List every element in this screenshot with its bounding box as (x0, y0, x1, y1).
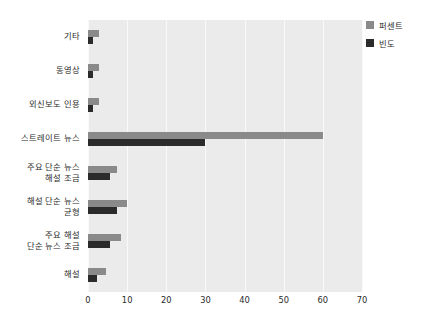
bar-percent[interactable] (88, 166, 117, 173)
chart-legend: 퍼센트빈도 (366, 19, 427, 55)
bar-group (88, 54, 362, 88)
bar-percent[interactable] (88, 98, 99, 105)
bar-frequency[interactable] (88, 37, 93, 44)
legend-item[interactable]: 빈도 (366, 37, 427, 49)
x-axis-tick-label: 60 (318, 295, 329, 305)
bar-frequency[interactable] (88, 207, 117, 214)
bar-group (88, 258, 362, 292)
legend-label: 빈도 (379, 37, 395, 49)
bar-frequency[interactable] (88, 241, 110, 248)
y-axis-label: 기타 (0, 31, 80, 43)
y-axis-label-line: 기타 (0, 31, 80, 43)
x-axis-tick-label: 0 (85, 295, 90, 305)
bar-percent[interactable] (88, 30, 99, 37)
y-axis-label-line: 외신보도 인용 (0, 99, 80, 111)
y-axis-label: 동영상 (0, 65, 80, 77)
legend-item[interactable]: 퍼센트 (366, 19, 427, 31)
y-axis-label: 외신보도 인용 (0, 99, 80, 111)
bar-frequency[interactable] (88, 71, 93, 78)
bar-percent[interactable] (88, 268, 106, 275)
y-axis-label-line: 균형 (0, 207, 80, 219)
bar-group (88, 88, 362, 122)
bar-group (88, 156, 362, 190)
y-axis-label: 해설 (0, 269, 80, 281)
legend-swatch-percent (366, 21, 374, 29)
y-axis-label: 스트레이트 뉴스 (0, 133, 80, 145)
bar-group (88, 190, 362, 224)
bar-frequency[interactable] (88, 275, 97, 282)
y-axis-label: 주요 단순 뉴스해설 조금 (0, 162, 80, 185)
y-axis-label-line: 주요 해설 (0, 230, 80, 242)
x-axis-labels: 010203040506070 (88, 295, 362, 313)
chart-container: 기타동영상외신보도 인용스트레이트 뉴스주요 단순 뉴스해설 조금해설 단순 뉴… (0, 0, 427, 335)
y-axis-labels: 기타동영상외신보도 인용스트레이트 뉴스주요 단순 뉴스해설 조금해설 단순 뉴… (0, 20, 84, 292)
gridline-70 (362, 20, 363, 292)
y-axis-label-line: 해설 (0, 269, 80, 281)
x-axis-tick-label: 40 (239, 295, 250, 305)
y-axis-label-line: 단순 뉴스 조금 (0, 241, 80, 253)
x-axis-tick-label: 20 (161, 295, 172, 305)
bar-frequency[interactable] (88, 173, 110, 180)
plot-area (88, 20, 362, 292)
bar-group (88, 122, 362, 156)
bar-group (88, 224, 362, 258)
bar-percent[interactable] (88, 132, 323, 139)
bar-percent[interactable] (88, 64, 99, 71)
y-axis-label-line: 해설 단순 뉴스 (0, 196, 80, 208)
bar-frequency[interactable] (88, 139, 205, 146)
y-axis-label: 해설 단순 뉴스균형 (0, 196, 80, 219)
bar-frequency[interactable] (88, 105, 93, 112)
x-axis-tick-label: 50 (278, 295, 289, 305)
bar-percent[interactable] (88, 234, 121, 241)
bar-group (88, 20, 362, 54)
bar-percent[interactable] (88, 200, 127, 207)
legend-swatch-frequency (366, 39, 374, 47)
y-axis-label-line: 해설 조금 (0, 173, 80, 185)
legend-label: 퍼센트 (379, 19, 403, 31)
x-axis-tick-label: 10 (122, 295, 133, 305)
x-axis-tick-label: 70 (357, 295, 368, 305)
y-axis-label-line: 주요 단순 뉴스 (0, 162, 80, 174)
x-axis-tick-label: 30 (200, 295, 211, 305)
y-axis-label-line: 스트레이트 뉴스 (0, 133, 80, 145)
y-axis-label-line: 동영상 (0, 65, 80, 77)
y-axis-label: 주요 해설단순 뉴스 조금 (0, 230, 80, 253)
